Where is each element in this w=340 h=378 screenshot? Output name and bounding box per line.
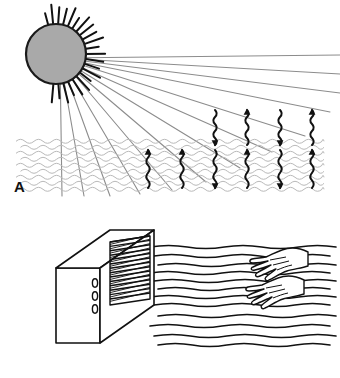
sun-spike-3 [63,9,67,26]
air-flow-line-9 [150,324,330,327]
sun [26,24,86,84]
panel-b-illustration [0,200,340,378]
panel-a-illustration [0,0,340,200]
air-flow-line-10 [154,334,336,337]
air-flow-line-3 [150,271,330,274]
hand-upper-hand [250,248,308,280]
panel-b: B [0,200,340,378]
radiation-arrow-above-head-0 [212,140,219,146]
air-flow-line-6 [150,295,336,298]
water-wave-row-5 [21,169,325,173]
radiation-arrow-above-shaft-1 [245,110,248,145]
air-flow-line-4 [154,279,336,282]
sun-ray-0 [60,55,340,58]
sun-spike-21 [52,83,54,102]
energy-arrow-water-head-2 [212,183,219,189]
panel-a: A [0,0,340,200]
sun-ray-5 [60,58,272,152]
radiation-arrow-above-shaft-0 [213,110,216,145]
sun-spike-1 [51,5,53,25]
panel-label-a: A [14,179,25,194]
sun-spike-19 [63,82,68,102]
air-flow-line-8 [158,314,336,317]
sun-ray-2 [60,58,340,93]
air-flow-line-11 [158,343,330,346]
energy-arrow-water-shaft-2 [213,150,216,188]
air-flow-line-0 [150,245,336,248]
water-wave-row-1 [21,145,325,149]
sun-spike-20 [58,83,59,98]
hand-outline-0 [250,248,308,280]
hand-lower-hand [246,276,304,308]
sun-spike-9 [83,38,103,45]
hand-outline-1 [246,276,304,308]
energy-arrow-water-head-4 [277,183,284,189]
water-wave-row-4 [16,163,324,167]
air-flow-line-2 [158,263,336,266]
radiation-arrows-above-water [212,109,316,147]
air-flow-line-7 [154,303,330,306]
hands-feeling-warmth [246,248,308,308]
sun-spike-10 [85,47,99,49]
sun-spike-18 [68,81,74,96]
figure-root: A B [0,0,340,378]
radiation-arrow-above-head-1 [244,109,251,115]
sun-spike-2 [58,7,59,25]
energy-arrow-water-shaft-1 [180,150,183,188]
